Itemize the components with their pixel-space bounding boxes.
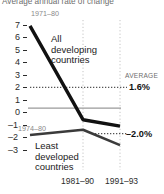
- x-axis-label-1981-90: 1981–90: [61, 176, 94, 186]
- y-tickmark: [23, 87, 27, 88]
- annotation-date-1974-80: 1974–80: [18, 124, 46, 133]
- y-tickmark: [23, 112, 27, 113]
- series1-label-line2: developing: [51, 44, 97, 55]
- y-axis-tick-label-neg1: –1: [2, 120, 18, 130]
- y-tickmark: [23, 62, 27, 63]
- series-label-all-developing-countries: All developing countries: [51, 34, 97, 66]
- series2-label-line2: developed: [35, 151, 79, 162]
- y-tickmark: [23, 25, 27, 26]
- average-value-least-developed: –2.0%: [126, 129, 152, 139]
- series-label-least-developed-countries: Least developed countries: [35, 141, 79, 173]
- y-axis-tick-label-7: 7: [4, 20, 20, 30]
- y-axis-tick-label-0: 0: [4, 107, 20, 117]
- y-tickmark: [23, 100, 27, 101]
- y-tickmark: [23, 150, 27, 151]
- y-axis-tick-label-4: 4: [4, 57, 20, 67]
- y-axis-tick-label-6: 6: [4, 32, 20, 42]
- y-axis-tick-label-5: 5: [4, 45, 20, 55]
- series1-label-line1: All: [51, 33, 62, 44]
- y-tickmark: [23, 37, 27, 38]
- series2-label-line3: countries: [35, 161, 74, 172]
- y-axis-tick-label-neg3: –3: [2, 145, 18, 155]
- y-axis-tick-label-3: 3: [4, 70, 20, 80]
- average-value-all-developing: 1.6%: [129, 82, 150, 92]
- y-tickmark: [23, 137, 27, 138]
- y-tickmark: [23, 75, 27, 76]
- series2-label-line1: Least: [35, 140, 58, 151]
- annotation-date-1971-80: 1971–80: [31, 9, 59, 18]
- x-axis-label-1991-93: 1991–93: [105, 176, 138, 186]
- chart-canvas: [0, 0, 164, 194]
- y-axis-tick-label-neg2: –2: [2, 132, 18, 142]
- y-tickmark: [23, 50, 27, 51]
- average-heading: AVERAGE: [125, 72, 158, 79]
- y-axis-tick-label-2: 2: [4, 82, 20, 92]
- y-axis-tick-label-1: 1: [4, 95, 20, 105]
- series1-label-line3: countries: [51, 54, 90, 65]
